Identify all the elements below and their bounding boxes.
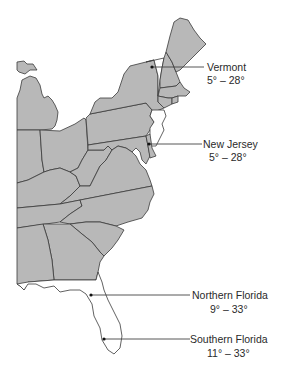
state-florida xyxy=(17,272,122,354)
eastern-us-map xyxy=(0,0,288,372)
callout-range-southern-florida: 11° – 33° xyxy=(207,347,250,359)
callout-range-vermont: 5° – 28° xyxy=(207,74,245,86)
state-michigan xyxy=(17,76,58,130)
callout-label-northern-florida: Northern Florida xyxy=(192,289,268,301)
state-michigan-up xyxy=(17,61,37,74)
callout-label-southern-florida: Southern Florida xyxy=(190,333,268,345)
callout-label-vermont: Vermont xyxy=(207,61,246,73)
callout-range-new-jersey: 5° – 28° xyxy=(209,151,247,163)
dot-southern-florida xyxy=(102,337,105,340)
dot-new-jersey xyxy=(147,142,150,145)
dot-vermont xyxy=(150,65,153,68)
callout-range-northern-florida: 9° – 33° xyxy=(210,303,248,315)
dot-northern-florida xyxy=(89,293,92,296)
callout-label-new-jersey: New Jersey xyxy=(203,138,258,150)
